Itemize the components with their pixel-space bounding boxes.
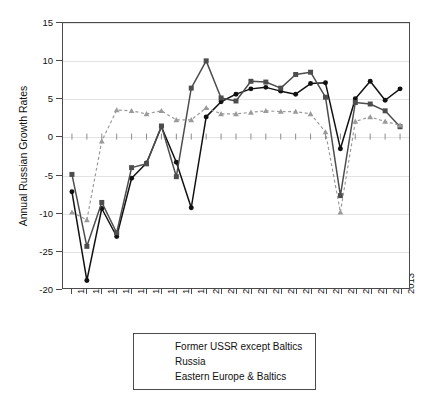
data-point — [338, 209, 344, 214]
chart-figure: Annual Russian Growth Rates 151050-5-10-… — [0, 0, 423, 401]
x-tick-mark — [116, 289, 117, 294]
legend: Former USSR except Baltics Russia Easter… — [133, 333, 316, 390]
data-point — [204, 114, 209, 119]
y-axis-title: Annual Russian Growth Rates — [17, 36, 29, 276]
data-point — [69, 189, 74, 194]
legend-marker-russia — [140, 356, 170, 368]
data-series-layer — [63, 23, 409, 288]
y-tick-label: -5 — [13, 169, 53, 180]
data-point — [84, 278, 89, 283]
x-tick-mark — [371, 289, 372, 294]
data-point — [248, 79, 253, 84]
data-point — [248, 109, 254, 114]
data-point — [234, 99, 239, 104]
data-point — [323, 129, 329, 134]
x-tick-mark — [251, 289, 252, 294]
x-tick-mark — [86, 289, 87, 294]
data-point — [114, 230, 119, 235]
x-tick-mark — [71, 289, 72, 294]
legend-item: Russia — [140, 354, 309, 369]
data-point — [398, 86, 403, 91]
y-tick-mark — [56, 289, 62, 290]
x-tick-mark — [296, 289, 297, 294]
data-point — [234, 92, 239, 97]
legend-marker-former-ussr — [140, 341, 170, 353]
data-point — [368, 102, 373, 107]
legend-label: Russia — [175, 356, 206, 367]
x-tick-mark — [191, 289, 192, 294]
data-point — [129, 108, 135, 113]
y-tick-label: 5 — [13, 93, 53, 104]
x-tick-mark — [101, 289, 102, 294]
data-point — [204, 58, 209, 63]
data-point — [174, 174, 179, 179]
data-point — [99, 200, 104, 205]
data-point — [383, 98, 388, 103]
data-point — [69, 172, 74, 177]
y-tick-label: -25 — [13, 245, 53, 256]
data-point — [278, 86, 283, 91]
x-tick-mark — [326, 289, 327, 294]
data-point — [159, 108, 165, 113]
x-tick-mark — [386, 289, 387, 294]
data-point — [308, 70, 313, 75]
y-tick-label: -20 — [13, 284, 53, 295]
data-point — [84, 244, 89, 249]
data-point — [353, 100, 358, 105]
x-tick-mark — [146, 289, 147, 294]
data-point — [189, 86, 194, 91]
data-point — [308, 111, 314, 116]
data-point — [248, 86, 253, 91]
x-tick-mark — [401, 289, 402, 294]
data-point — [69, 209, 75, 214]
data-point — [382, 119, 388, 124]
plot-area — [62, 22, 410, 289]
data-point — [323, 80, 328, 85]
x-tick-mark — [161, 289, 162, 294]
x-tick-mark — [206, 289, 207, 294]
data-point — [368, 79, 373, 84]
data-point — [293, 72, 298, 77]
data-point — [159, 123, 164, 128]
x-tick-mark — [176, 289, 177, 294]
legend-label: Eastern Europe & Baltics — [175, 371, 286, 382]
series-line — [72, 108, 400, 220]
data-point — [189, 205, 194, 210]
y-tick-label: 15 — [13, 17, 53, 28]
x-tick-mark — [221, 289, 222, 294]
data-point — [293, 92, 298, 97]
data-point — [144, 161, 149, 166]
data-point — [383, 108, 388, 113]
y-tick-label: -10 — [13, 207, 53, 218]
data-point — [323, 95, 328, 100]
data-point — [114, 107, 120, 112]
y-tick-label: 10 — [13, 55, 53, 66]
data-point — [203, 105, 209, 110]
data-point — [219, 95, 224, 100]
data-point — [338, 146, 343, 151]
x-tick-mark — [131, 289, 132, 294]
legend-marker-eastern-europe — [140, 371, 170, 383]
legend-item: Eastern Europe & Baltics — [140, 369, 309, 384]
data-point — [338, 193, 343, 198]
data-point — [308, 81, 313, 86]
data-point — [367, 114, 373, 119]
x-tick-mark — [311, 289, 312, 294]
data-point — [293, 109, 299, 114]
x-tick-mark — [281, 289, 282, 294]
x-tick-mark — [356, 289, 357, 294]
data-point — [263, 80, 268, 85]
data-point — [129, 165, 134, 170]
x-tick-mark — [236, 289, 237, 294]
legend-label: Former USSR except Baltics — [175, 341, 302, 352]
data-point — [263, 85, 268, 90]
data-point — [84, 217, 90, 222]
x-tick-mark — [341, 289, 342, 294]
data-point — [99, 138, 105, 143]
y-tick-label: 0 — [13, 131, 53, 142]
legend-item: Former USSR except Baltics — [140, 339, 309, 354]
x-tick-mark — [266, 289, 267, 294]
